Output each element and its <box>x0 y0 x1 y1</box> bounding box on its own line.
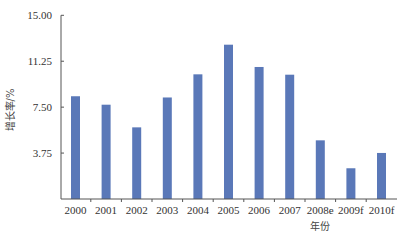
x-tick-label: 2005 <box>218 204 241 216</box>
bar-2006 <box>255 67 264 199</box>
x-tick-label: 2004 <box>187 204 210 216</box>
x-tick-label: 2000 <box>65 204 88 216</box>
y-axis-ticks: 3.757.5011.2515.00 <box>27 9 64 159</box>
x-tick-label: 2007 <box>279 204 302 216</box>
x-tick-label: 2008e <box>307 204 334 216</box>
bar-2005 <box>224 45 233 199</box>
bar-2008e <box>316 140 325 199</box>
bar-2000 <box>71 96 80 199</box>
y-tick-label: 11.25 <box>28 55 53 67</box>
y-tick-label: 7.50 <box>33 101 53 113</box>
x-axis-title: 年份 <box>310 220 330 232</box>
bar-2001 <box>102 105 111 199</box>
bar-2004 <box>193 74 202 199</box>
x-tick-label: 2009f <box>338 204 364 216</box>
bar-chart: 3.757.5011.2515.00 200020012002200320042… <box>0 0 406 239</box>
bar-2003 <box>163 97 172 199</box>
x-tick-label: 2001 <box>95 204 117 216</box>
y-tick-label: 15.00 <box>27 9 52 21</box>
bar-2009f <box>346 168 355 199</box>
y-axis-title: 增长率/% <box>4 89 16 132</box>
bar-2002 <box>132 127 141 199</box>
bars <box>71 45 386 199</box>
x-tick-label: 2006 <box>248 204 271 216</box>
bar-2010f <box>377 153 386 199</box>
bar-2007 <box>285 75 294 199</box>
y-tick-label: 3.75 <box>33 147 53 159</box>
x-tick-label: 2002 <box>126 204 148 216</box>
x-tick-label: 2010f <box>369 204 395 216</box>
x-axis-ticks: 200020012002200320042005200620072008e200… <box>65 199 395 216</box>
x-tick-label: 2003 <box>156 204 179 216</box>
